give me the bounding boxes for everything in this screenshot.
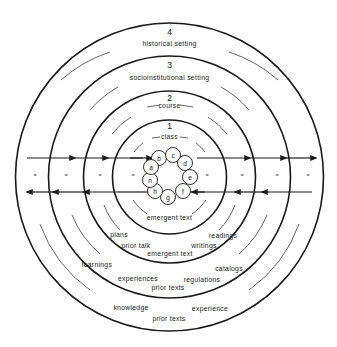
ring-1-emergent-text: emergent text xyxy=(147,214,192,222)
ring-3-prior-texts: prior texts xyxy=(151,284,184,292)
ring-2-plans: plans xyxy=(110,231,128,239)
ring-3-learnings: learnings xyxy=(82,261,113,269)
ring-2-writings: writings xyxy=(190,242,217,250)
ring-4-prior-texts: prior texts xyxy=(152,315,185,323)
ring-1-number: 1 xyxy=(167,121,172,131)
nested-context-diagram: 4 historical setting 3 socioinstitutiona… xyxy=(0,0,337,347)
flow-arrows xyxy=(27,158,316,192)
svg-text:=: = xyxy=(275,172,278,178)
ring-4-label: historical setting xyxy=(142,40,196,48)
svg-text:=: = xyxy=(33,172,36,178)
svg-text:h: h xyxy=(153,188,157,195)
ring-3-regulations: regulations xyxy=(184,276,221,284)
participant-nodes: b c d e f g h n a xyxy=(143,148,198,205)
svg-text:d: d xyxy=(183,160,187,167)
ring-3-number: 3 xyxy=(167,60,172,70)
svg-text:b: b xyxy=(157,155,161,162)
svg-text:=: = xyxy=(306,172,309,178)
ring-1-label: class xyxy=(161,133,178,140)
svg-text:=: = xyxy=(64,172,67,178)
svg-text:g: g xyxy=(166,194,170,202)
ring-4-knowledge: knowledge xyxy=(113,304,148,312)
ring-4-experience: experience xyxy=(192,305,228,313)
svg-text:=: = xyxy=(98,172,101,178)
ring-3-catalogs: catalogs xyxy=(215,265,243,273)
ring-3-experiences: experiences xyxy=(118,275,158,283)
svg-text:=: = xyxy=(131,172,134,178)
equivalence-marks: = = = = = = = = xyxy=(33,172,309,178)
ring-3-label: socioinstitutional setting xyxy=(130,74,210,82)
ring-4-number: 4 xyxy=(167,27,172,37)
ring-2-readings: readings xyxy=(209,232,238,240)
svg-text:f: f xyxy=(182,188,184,195)
svg-text:e: e xyxy=(188,174,192,181)
ring-2-label: course xyxy=(158,102,180,109)
ring-2-emergent-text: emergent text xyxy=(147,250,192,258)
svg-text:=: = xyxy=(205,172,208,178)
svg-text:a: a xyxy=(149,164,153,171)
svg-text:n: n xyxy=(148,177,152,184)
ring-2-prior-talk: prior talk xyxy=(121,242,150,250)
svg-text:=: = xyxy=(240,172,243,178)
